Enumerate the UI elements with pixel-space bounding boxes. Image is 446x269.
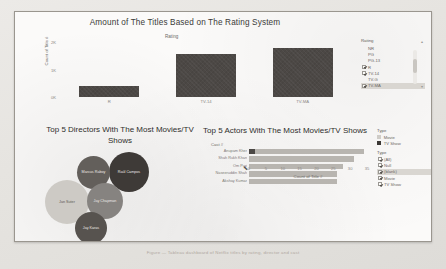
checkbox-icon[interactable]	[378, 176, 382, 180]
rating-filter-label: R	[368, 65, 371, 70]
actor-name-label: Akshay Kumar	[195, 179, 247, 183]
actors-x-tick: 15	[294, 166, 306, 171]
actor-bar-highlight[interactable]	[249, 149, 255, 154]
actors-chart-title: Top 5 Actors With The Most Movies/TV Sho…	[193, 126, 377, 135]
directors-chart-title: Top 5 Directors With The Most Movies/TV …	[35, 124, 205, 146]
actor-name-label: Shah Rukh Khan	[195, 156, 247, 160]
rating-filter-label: NR	[368, 46, 374, 51]
rating-filter-title: Rating	[361, 38, 425, 43]
type-legend-title: Type	[377, 128, 432, 133]
legend-swatch-icon	[377, 141, 381, 145]
ratings-x-tick: TV-MA	[273, 99, 333, 104]
directors-bubble-area[interactable]: Raúl CamposMarcus RaboyJan SuterJay Chap…	[35, 150, 205, 242]
actors-x-tick: 10	[277, 166, 289, 171]
checkbox-icon[interactable]	[378, 170, 382, 174]
type-legend-list[interactable]: MovieTV Show	[377, 134, 432, 146]
actors-x-tick: 5	[260, 166, 272, 171]
rating-filter-label: TV-MA	[368, 83, 381, 88]
tableau-dashboard: Amount of The Titles Based on The Rating…	[14, 11, 432, 242]
type-filter-label: Null	[384, 163, 391, 168]
actors-x-tick: 35	[361, 166, 373, 171]
ratings-y-tick: 0K	[42, 95, 56, 100]
ratings-bar[interactable]	[176, 54, 236, 97]
ratings-y-tick: 2K	[42, 40, 56, 45]
actors-x-axis-title: Count of Title #	[249, 174, 367, 179]
actor-name-label: Anupam Kher	[195, 149, 247, 153]
mouse-cursor-icon: ⬉	[243, 164, 248, 171]
actor-bar[interactable]	[249, 149, 364, 154]
type-filter-list[interactable]: (All)Null(blank)MovieTV Show	[377, 156, 432, 187]
actor-bar-row[interactable]: Anupam Kher	[249, 149, 367, 154]
type-filter-label: (All)	[384, 157, 391, 162]
checkbox-icon[interactable]	[362, 65, 366, 69]
ratings-bar[interactable]	[79, 86, 139, 97]
actor-bar[interactable]	[249, 179, 337, 184]
actor-bar[interactable]	[249, 156, 354, 161]
cast-field-label: Cast #	[211, 142, 223, 147]
actor-name-label: Om Puri	[195, 164, 247, 168]
type-panel[interactable]: Type MovieTV Show Type (All)Null(blank)M…	[377, 128, 432, 187]
rating-filter-scrollbar[interactable]	[413, 50, 417, 84]
checkbox-icon[interactable]	[362, 71, 366, 75]
type-filter-block[interactable]: Type (All)Null(blank)MovieTV Show	[377, 150, 432, 187]
actor-bar-row[interactable]: Akshay Kumar	[249, 179, 367, 184]
director-bubble[interactable]: Jay Karas	[75, 212, 107, 242]
rating-filter-label: PG	[368, 52, 374, 57]
type-legend-item[interactable]: TV Show	[377, 140, 432, 146]
actors-x-tick: 20	[310, 166, 322, 171]
rating-scroll-down-arrow[interactable]: ▾	[421, 85, 423, 89]
actors-bar-chart: Top 5 Actors With The Most Movies/TV Sho…	[193, 124, 377, 236]
type-legend-label: Movie	[384, 135, 395, 140]
ratings-y-tick: 1K	[42, 68, 56, 73]
ratings-plot-area	[61, 42, 351, 97]
type-filter-title: Type	[377, 150, 432, 155]
actor-bar-row[interactable]: Shah Rukh Khan	[249, 156, 367, 161]
checkbox-icon[interactable]	[362, 84, 366, 88]
checkbox-icon[interactable]	[378, 182, 382, 186]
type-legend-label: TV Show	[384, 141, 401, 146]
scrollbar-thumb[interactable]	[413, 59, 417, 73]
actors-x-tick: 30	[344, 166, 356, 171]
checkbox-icon[interactable]	[378, 157, 382, 161]
checkbox-icon[interactable]	[378, 163, 382, 167]
actor-name-label: Naseeruddin Shah	[195, 171, 247, 175]
checkbox-icon[interactable]	[362, 46, 366, 50]
directors-bubble-chart: Top 5 Directors With The Most Movies/TV …	[35, 124, 205, 242]
actors-x-tick: 25	[327, 166, 339, 171]
ratings-x-tick: R	[79, 99, 139, 104]
legend-swatch-icon	[377, 135, 381, 139]
checkbox-icon[interactable]	[362, 52, 366, 56]
rating-filter-label: TV-14	[368, 71, 379, 76]
type-filter-label: (blank)	[384, 169, 397, 174]
rating-filter-label: TV-G	[368, 77, 378, 82]
type-filter-item[interactable]: TV Show	[377, 181, 432, 187]
screenshot-canvas: Amount of The Titles Based on The Rating…	[0, 0, 446, 269]
checkbox-icon[interactable]	[362, 59, 366, 63]
rating-filter-label: PG-13	[368, 58, 380, 63]
rating-filter-panel[interactable]: Rating NRPGPG-13RTV-14TV-GTV-MA ▴ ▾	[361, 38, 425, 98]
ratings-bar[interactable]	[273, 48, 333, 98]
ratings-x-tick: TV-14	[176, 99, 236, 104]
rating-scroll-up-arrow[interactable]: ▴	[421, 40, 423, 44]
ratings-chart-title: Amount of The Titles Based on The Rating…	[15, 18, 355, 27]
type-filter-label: TV Show	[384, 182, 401, 187]
checkbox-icon[interactable]	[362, 78, 366, 82]
figure-caption: Figure — Tableau dashboard of Netflix ti…	[0, 250, 446, 255]
type-filter-label: Movie	[384, 176, 395, 181]
ratings-x-axis-title: Rating	[165, 34, 178, 39]
